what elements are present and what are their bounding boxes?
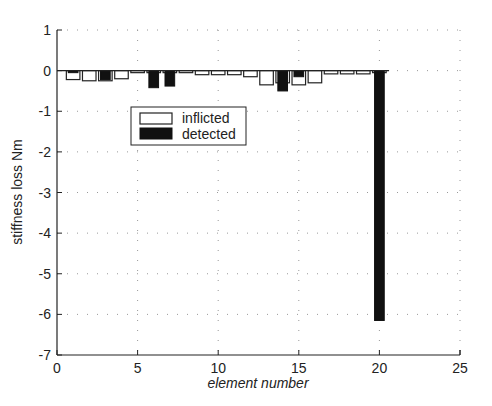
bar-inflicted	[115, 71, 129, 79]
legend: inflicted detected	[131, 107, 246, 145]
y-tick-label: -3	[39, 185, 52, 201]
y-tick-label: -4	[39, 225, 52, 241]
bar-detected	[375, 71, 385, 321]
bar-detected	[149, 71, 159, 88]
x-tick-label: 25	[452, 360, 468, 376]
y-tick-label: 1	[43, 22, 51, 38]
bar-chart: 10-1-2-3-4-5-6-70510152025 element numbe…	[0, 0, 492, 406]
x-tick-label: 0	[53, 360, 61, 376]
x-tick-label: 10	[210, 360, 226, 376]
bar-inflicted	[228, 71, 242, 75]
bar-inflicted	[211, 71, 225, 75]
y-axis-label: stiffness loss Nm	[9, 139, 25, 245]
legend-label-inflicted: inflicted	[182, 110, 229, 126]
x-tick-label: 15	[291, 360, 307, 376]
bar-inflicted	[82, 71, 96, 81]
bar-detected	[165, 71, 175, 86]
y-tick-label: -2	[39, 144, 52, 160]
bar-inflicted	[195, 71, 209, 75]
x-tick-label: 20	[372, 360, 388, 376]
bar-detected	[278, 71, 288, 91]
y-tick-label: -5	[39, 266, 52, 282]
y-tick-label: 0	[43, 63, 51, 79]
x-axis-label: element number	[207, 375, 310, 391]
y-tick-label: -7	[39, 347, 52, 363]
bar-inflicted	[260, 71, 274, 85]
bar-detected	[101, 71, 111, 80]
legend-label-detected: detected	[182, 126, 236, 142]
y-tick-label: -1	[39, 103, 52, 119]
legend-swatch-inflicted	[140, 113, 172, 124]
y-tick-label: -6	[39, 306, 52, 322]
x-tick-label: 5	[134, 360, 142, 376]
bar-inflicted	[308, 71, 322, 83]
legend-swatch-detected	[140, 128, 172, 139]
bar-detected	[294, 71, 304, 77]
bar-inflicted	[244, 71, 258, 77]
